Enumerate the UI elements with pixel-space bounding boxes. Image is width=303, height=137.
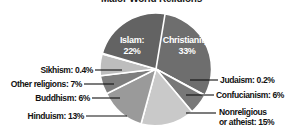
callout-nonreligious: Nonreligious or atheist: 15%: [219, 107, 274, 127]
callout-buddhism: Buddhism: 6%: [0, 93, 90, 103]
callout-judaism: Judaism: 0.2%: [220, 75, 275, 85]
pie-slices: [100, 13, 212, 126]
slice-label-christianity-name: Christianity:: [158, 35, 216, 46]
slice-label-christianity-value: 33%: [158, 46, 216, 57]
callout-other-religions: Other religions: 7%: [0, 79, 82, 89]
callout-nonreligious-line2: or atheist: 15%: [219, 117, 274, 127]
callout-hinduism: Hinduism: 13%: [0, 111, 84, 121]
slice-label-islam-name: Islam:: [108, 35, 156, 46]
slice-label-islam-value: 22%: [108, 46, 156, 57]
callout-sikhism: Sikhism: 0.4%: [0, 65, 93, 75]
slice-label-christianity: Christianity: 33%: [158, 35, 216, 56]
chart-page: Major World Religions: [0, 0, 303, 137]
slice-label-islam: Islam: 22%: [108, 35, 156, 56]
callout-nonreligious-line1: Nonreligious: [219, 107, 274, 117]
callout-confucianism: Confucianism: 6%: [216, 90, 284, 100]
